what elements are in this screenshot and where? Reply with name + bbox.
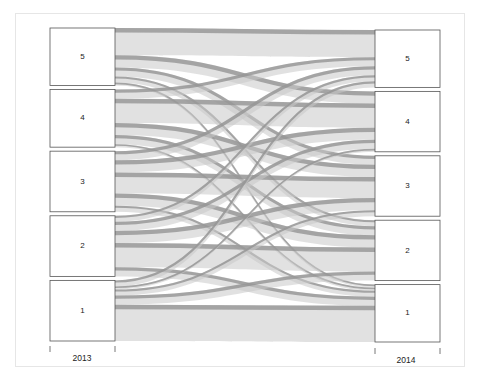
- flows-layer: [115, 28, 375, 342]
- flow-1-to-1: [115, 305, 375, 342]
- axis-label-2013: 2013: [73, 353, 92, 363]
- 2013-node-label-2: 2: [80, 241, 85, 250]
- 2013-node-label-1: 1: [80, 306, 85, 315]
- axis-label-2014: 2014: [397, 355, 416, 365]
- 2014-node-label-5: 5: [405, 54, 410, 63]
- 2014-node-label-4: 4: [405, 117, 410, 126]
- 2014-node-label-3: 3: [405, 181, 410, 190]
- alluvial-diagram: 5432154321 2013 2014: [0, 0, 488, 385]
- 2014-node-label-1: 1: [405, 308, 410, 317]
- axes-layer: 2013 2014: [50, 346, 440, 365]
- flow-edge-1-to-1: [115, 307, 375, 308]
- 2013-node-label-4: 4: [80, 113, 85, 122]
- 2013-node-label-5: 5: [80, 52, 85, 61]
- flow-edge-5-to-5: [115, 30, 375, 32]
- 2013-node-label-3: 3: [80, 177, 85, 186]
- 2014-node-label-2: 2: [405, 246, 410, 255]
